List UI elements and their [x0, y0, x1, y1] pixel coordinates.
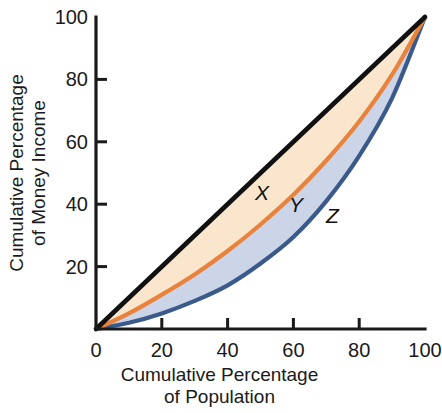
x-axis-title-line-1: Cumulative Percentage: [0, 364, 439, 386]
x-tick-label-0: 0: [90, 340, 101, 360]
x-axis-title-line-2: of Population: [0, 386, 439, 408]
region-label-z: Z: [326, 205, 339, 226]
region-label-y: Y: [289, 194, 303, 215]
x-axis-title: Cumulative Percentage of Population: [0, 364, 439, 409]
x-tick-label-20: 20: [151, 340, 173, 360]
x-tick-label-40: 40: [216, 340, 238, 360]
x-tick-label-60: 60: [282, 340, 304, 360]
x-tick-label-100: 100: [408, 340, 441, 360]
y-axis-title-line-1: Cumulative Percentage: [6, 17, 28, 329]
region-label-x: X: [255, 182, 269, 203]
x-tick-label-80: 80: [348, 340, 370, 360]
y-axis-title-line-2: of Money Income: [28, 17, 50, 329]
y-axis-title: Cumulative Percentage of Money Income: [6, 17, 51, 329]
